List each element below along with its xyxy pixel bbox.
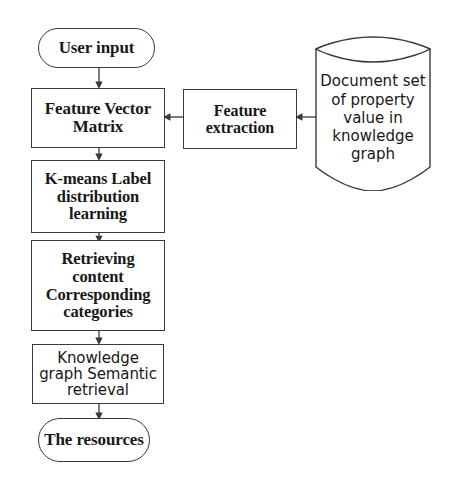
node-user-input-label: User input	[57, 39, 137, 57]
node-knowledge-graph-semantic-retrieval[interactable]: Knowledge graph Semantic retrieval	[32, 344, 164, 404]
edge-user-input-to-feature-vector-matrix	[90, 66, 108, 90]
node-feature-extraction[interactable]: Feature extraction	[183, 89, 297, 149]
node-knowledge-graph-semantic-label: Knowledge graph Semantic retrieval	[37, 350, 159, 399]
node-the-resources[interactable]: The resources	[38, 418, 150, 462]
node-retrieving-label: Retrieving content Corresponding categor…	[44, 250, 153, 321]
node-document-set-label: Document set of property value in knowle…	[315, 62, 431, 174]
node-feature-vector-matrix[interactable]: Feature Vector Matrix	[31, 88, 165, 148]
node-document-set-cylinder[interactable]: Document set of property value in knowle…	[315, 36, 431, 191]
node-feature-vector-matrix-label: Feature Vector Matrix	[43, 100, 153, 137]
node-user-input[interactable]: User input	[38, 28, 155, 68]
node-kmeans-label: K-means Label distribution learning	[43, 170, 153, 223]
node-the-resources-label: The resources	[42, 431, 146, 449]
node-feature-extraction-label: Feature extraction	[204, 102, 276, 137]
node-retrieving-content-corresponding-categories[interactable]: Retrieving content Corresponding categor…	[31, 240, 165, 331]
node-kmeans-label-distribution-learning[interactable]: K-means Label distribution learning	[31, 160, 165, 233]
flowchart-canvas: User input Feature Vector Matrix K-means…	[0, 0, 449, 482]
